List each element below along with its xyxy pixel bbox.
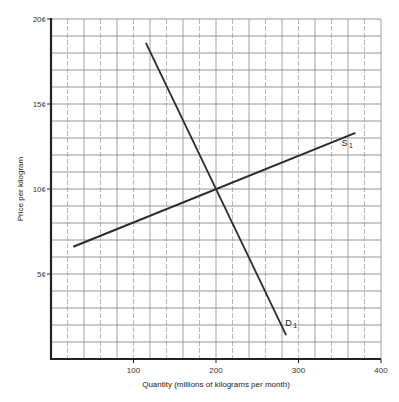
y-tick-label: 20¢ <box>33 15 46 24</box>
supply-demand-chart: 100200300400 5¢10¢15¢20¢ S1D1 Quantity (… <box>0 0 399 402</box>
x-axis-ticks: 100200300400 <box>127 359 388 375</box>
supply-curve <box>73 133 355 247</box>
demand-curve-label: D1 <box>285 318 297 329</box>
y-tick-label: 5¢ <box>37 270 46 279</box>
y-axis-ticks: 5¢10¢15¢20¢ <box>33 15 51 279</box>
y-tick-label: 15¢ <box>33 100 46 109</box>
y-axis-title: Price per kilogram <box>16 156 25 221</box>
x-tick-label: 400 <box>374 366 388 375</box>
x-tick-label: 300 <box>292 366 306 375</box>
y-tick-label: 10¢ <box>33 185 46 194</box>
supply-curve-label: S1 <box>341 138 353 149</box>
x-tick-label: 100 <box>127 366 141 375</box>
x-tick-label: 200 <box>209 366 223 375</box>
x-axis-title: Quantity (millions of kilograms per mont… <box>142 380 290 389</box>
